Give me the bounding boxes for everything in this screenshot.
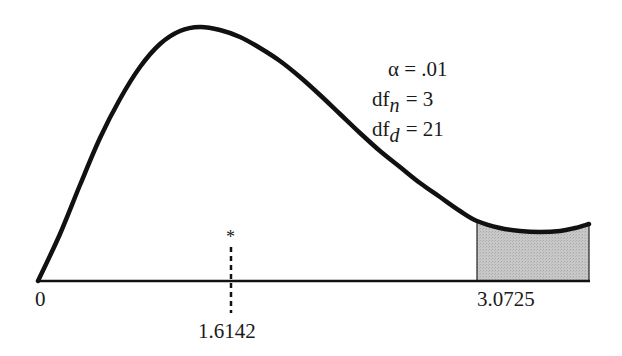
df-numerator-label: dfn = 3 (372, 84, 448, 114)
alpha-label: α = .01 (372, 54, 448, 84)
parameter-block: α = .01 dfn = 3 dfd = 21 (372, 54, 448, 144)
x-tick-label-zero: 0 (35, 289, 46, 310)
observed-asterisk-marker: * (226, 228, 235, 246)
df-denominator-label: dfd = 21 (372, 114, 448, 144)
alpha-symbol: α (388, 57, 399, 81)
x-tick-label-critical-value: 3.0725 (477, 289, 535, 310)
observed-value-label: 1.6142 (198, 321, 256, 342)
